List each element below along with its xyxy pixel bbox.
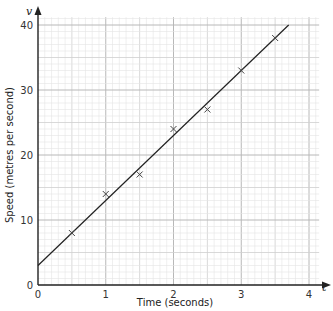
speed-time-chart: 01234010203040 v t Time (seconds) Speed … (0, 0, 333, 311)
fit-line (38, 25, 289, 266)
best-fit-line (38, 25, 289, 266)
x-axis-title: Time (seconds) (136, 297, 213, 308)
y-tick-label: 20 (20, 150, 33, 161)
y-tick-label: 0 (27, 280, 33, 291)
x-tick-label: 3 (238, 289, 244, 300)
y-tick-label: 10 (20, 215, 33, 226)
grid (38, 17, 319, 285)
y-axis-title: Speed (metres per second) (4, 87, 15, 223)
y-axis-arrow-icon (35, 6, 42, 15)
y-axis-symbol: v (26, 5, 33, 18)
y-tick-label: 30 (20, 85, 33, 96)
y-tick-label: 40 (20, 20, 33, 31)
x-tick-label: 4 (306, 289, 312, 300)
x-tick-label: 1 (103, 289, 109, 300)
x-tick-label: 0 (35, 289, 41, 300)
x-axis-symbol: t (322, 281, 327, 294)
